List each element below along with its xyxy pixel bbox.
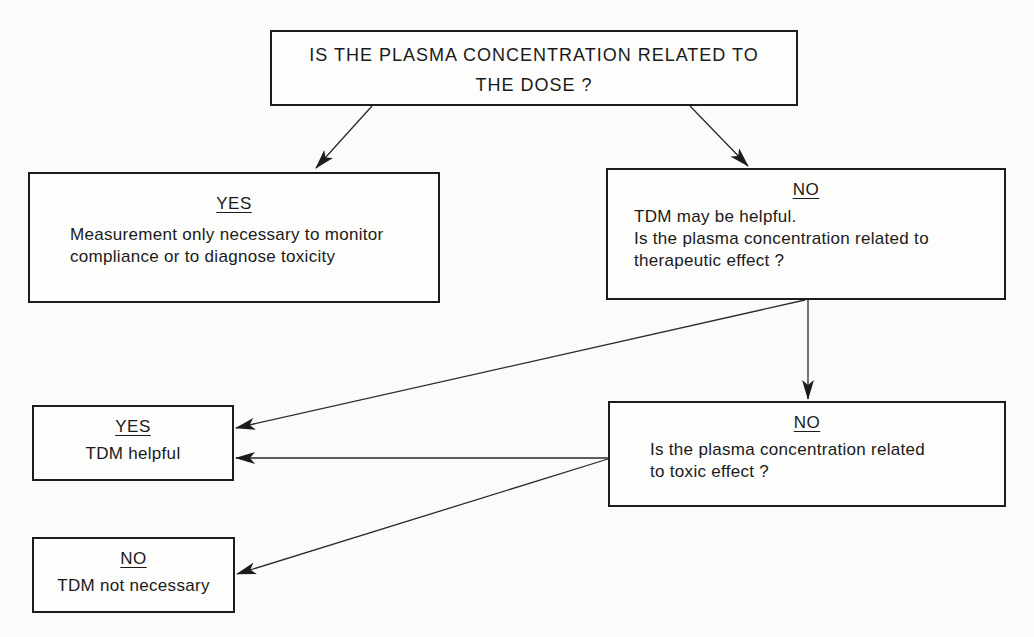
no-dose-heading: NO <box>608 180 1004 200</box>
tdm-helpful-box: YES TDM helpful <box>32 405 234 481</box>
question-dose-line2: THE DOSE ? <box>272 70 796 100</box>
no-dose-line3: therapeutic effect ? <box>634 250 1004 272</box>
tdm-helpful-heading: YES <box>34 417 232 437</box>
tdm-not-necessary-text: TDM not necessary <box>34 575 233 597</box>
yes-dose-heading: YES <box>30 194 438 214</box>
arrow-no-toxic-to-no-necessary <box>237 459 608 574</box>
no-therapeutic-heading: NO <box>610 413 1004 433</box>
question-dose-line1: IS THE PLASMA CONCENTRATION RELATED TO <box>272 40 796 70</box>
yes-dose-line2: compliance or to diagnose toxicity <box>70 246 438 268</box>
no-dose-line2: Is the plasma concentration related to <box>634 228 1004 250</box>
no-therapeutic-line1: Is the plasma concentration related <box>650 439 1004 461</box>
no-dose-box: NO TDM may be helpful. Is the plasma con… <box>606 168 1006 300</box>
yes-dose-box: YES Measurement only necessary to monito… <box>28 172 440 303</box>
tdm-not-necessary-heading: NO <box>34 549 233 569</box>
tdm-not-necessary-box: NO TDM not necessary <box>32 537 235 613</box>
arrow-root-to-no <box>690 106 748 166</box>
tdm-helpful-text: TDM helpful <box>34 443 232 465</box>
question-dose-box: IS THE PLASMA CONCENTRATION RELATED TO T… <box>270 30 798 106</box>
no-therapeutic-box: NO Is the plasma concentration related t… <box>608 401 1006 507</box>
no-dose-line1: TDM may be helpful. <box>634 206 1004 228</box>
no-therapeutic-line2: to toxic effect ? <box>650 461 1004 483</box>
arrow-root-to-yes <box>316 106 372 168</box>
yes-dose-line1: Measurement only necessary to monitor <box>70 224 438 246</box>
